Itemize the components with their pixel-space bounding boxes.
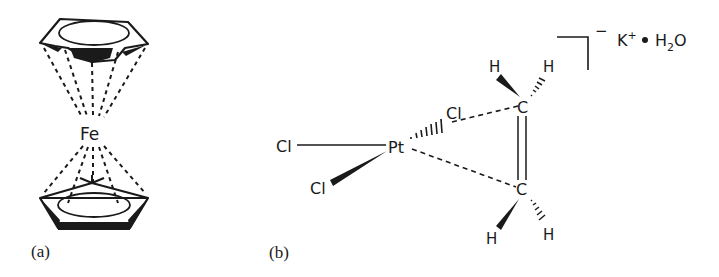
c-bottom-label: C — [516, 180, 527, 199]
water-h: H — [655, 31, 667, 50]
bottom-cp-ring — [40, 175, 148, 230]
potassium-symbol: K — [617, 31, 628, 50]
cl-left-label: Cl — [276, 137, 292, 156]
panel-b-caption: (b) — [269, 243, 289, 262]
hydrate-dot — [642, 37, 648, 43]
h-top-right-label: H — [543, 58, 554, 76]
water-o: O — [674, 31, 687, 50]
pt-cl-wedge-bond — [330, 151, 387, 186]
h-bottom-right-label: H — [543, 226, 554, 244]
chemical-structures-figure: Fe (a) Cl Pt — [0, 0, 719, 277]
c-h-wedge-top — [496, 74, 520, 97]
h-bottom-left-label: H — [486, 230, 497, 248]
counterion-label: K+ — [617, 29, 637, 50]
h-top-left-label: H — [489, 58, 500, 76]
cl-wedge-label: Cl — [310, 179, 326, 198]
bottom-ring-bonds — [44, 146, 145, 203]
c-top-label: C — [517, 98, 528, 117]
fe-atom-label: Fe — [80, 124, 99, 144]
complex-bracket — [557, 37, 588, 70]
pt-atom-label: Pt — [388, 138, 404, 157]
c-h-hashed-top — [531, 78, 545, 96]
water-label: H2O — [655, 31, 687, 54]
pt-ethylene-bonds — [412, 106, 518, 187]
water-subscript: 2 — [667, 41, 674, 54]
pt-cl-hashed-bond — [411, 119, 442, 139]
zeise-salt-structure: Cl Pt Cl Cl C C — [269, 22, 687, 262]
potassium-charge: + — [628, 29, 637, 42]
c-h-hashed-bottom — [531, 200, 545, 220]
cl-hashed-label: Cl — [446, 104, 462, 123]
c-h-wedge-bottom — [496, 199, 519, 230]
anion-charge: − — [595, 22, 608, 40]
top-cp-ring — [40, 19, 148, 63]
c-c-double-bond — [518, 116, 526, 180]
ferrocene-structure: Fe (a) — [31, 19, 148, 261]
panel-a-caption: (a) — [31, 242, 50, 261]
